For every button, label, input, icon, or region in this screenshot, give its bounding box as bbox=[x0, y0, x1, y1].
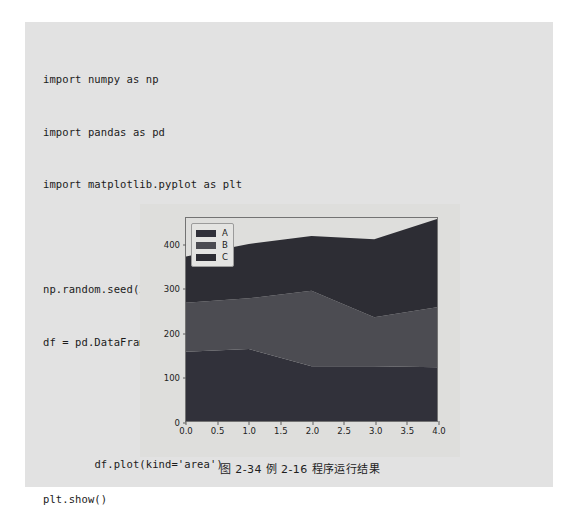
x-tick-mark bbox=[439, 421, 440, 425]
figure-caption: 图 2-34 例 2-16 程序运行结果 bbox=[140, 460, 460, 476]
y-tick-label: 300 bbox=[164, 284, 180, 294]
y-tick-mark bbox=[183, 333, 187, 334]
code-line: import pandas as pd bbox=[43, 124, 523, 142]
legend-item-a[interactable]: A bbox=[196, 227, 228, 239]
x-tick-label: 3.5 bbox=[401, 426, 415, 436]
x-tick-label: 0.5 bbox=[211, 426, 225, 436]
x-tick-mark bbox=[344, 421, 345, 425]
code-line: import matplotlib.pyplot as plt bbox=[43, 176, 523, 194]
y-tick-mark bbox=[183, 378, 187, 379]
legend-swatch-a bbox=[196, 230, 216, 237]
code-line: plt.show() bbox=[43, 491, 523, 509]
x-tick-label: 4.0 bbox=[432, 426, 446, 436]
y-tick-mark bbox=[183, 289, 187, 290]
x-tick-label: 0.0 bbox=[179, 426, 193, 436]
legend-item-b[interactable]: B bbox=[196, 239, 228, 251]
x-tick-label: 2.5 bbox=[337, 426, 351, 436]
content-panel: import numpy as np import pandas as pd i… bbox=[25, 22, 553, 487]
y-tick-label: 200 bbox=[164, 329, 180, 339]
x-tick-mark bbox=[186, 421, 187, 425]
code-line: import numpy as np bbox=[43, 71, 523, 89]
x-tick-mark bbox=[249, 421, 250, 425]
y-tick-label: 100 bbox=[164, 373, 180, 383]
legend-swatch-b bbox=[196, 242, 216, 249]
y-tick-mark bbox=[183, 244, 187, 245]
x-tick-label: 1.5 bbox=[274, 426, 288, 436]
x-tick-label: 2.0 bbox=[306, 426, 320, 436]
chart-axes: 0100200300400 0.00.51.01.52.02.53.03.54.… bbox=[185, 217, 438, 422]
x-tick-mark bbox=[375, 421, 376, 425]
y-tick-label: 400 bbox=[164, 240, 180, 250]
matplotlib-figure: 0100200300400 0.00.51.01.52.02.53.03.54.… bbox=[140, 204, 460, 457]
document-page: import numpy as np import pandas as pd i… bbox=[0, 0, 578, 515]
x-tick-mark bbox=[217, 421, 218, 425]
chart-legend[interactable]: A B C bbox=[191, 223, 234, 267]
x-tick-mark bbox=[280, 421, 281, 425]
x-tick-label: 1.0 bbox=[242, 426, 256, 436]
legend-label-b: B bbox=[222, 241, 228, 250]
x-tick-label: 3.0 bbox=[369, 426, 383, 436]
x-tick-mark bbox=[312, 421, 313, 425]
legend-swatch-c bbox=[196, 254, 216, 261]
legend-item-c[interactable]: C bbox=[196, 251, 228, 263]
legend-label-c: C bbox=[222, 253, 228, 262]
legend-label-a: A bbox=[222, 229, 228, 238]
figure-block: 0100200300400 0.00.51.01.52.02.53.03.54.… bbox=[140, 204, 460, 472]
x-tick-mark bbox=[407, 421, 408, 425]
